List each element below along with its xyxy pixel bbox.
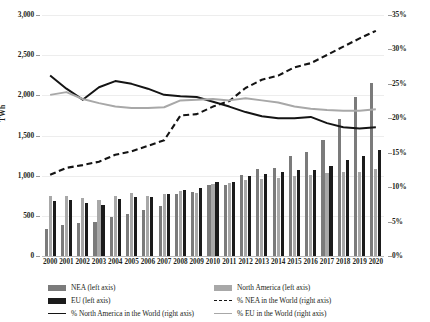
x-axis-tick-label: 2020 — [365, 258, 387, 266]
y-axis-tick-label: 2,000 — [18, 90, 34, 99]
legend-item[interactable]: % EU in the World (right axis) — [214, 307, 430, 320]
y-axis-tickmark — [36, 256, 40, 257]
legend-swatch-icon — [48, 298, 66, 304]
legend-label: % EU in the World (right axis) — [237, 309, 326, 318]
legend-label: NEA (left axis) — [71, 283, 115, 292]
legend-item[interactable]: North America (left axis) — [214, 281, 430, 294]
y2-axis-tick-label: 15% — [392, 148, 406, 157]
plot-area — [42, 15, 384, 256]
legend-column-left: NEA (left axis)EU (left axis)% North Ame… — [0, 281, 192, 322]
y-axis-tick-label: 3,000 — [18, 10, 34, 19]
left-axis-ticks: 05001,0001,5002,0002,5003,000 — [0, 15, 40, 256]
line-series-layer — [42, 15, 384, 256]
legend-item[interactable]: EU (left axis) — [48, 294, 192, 307]
legend-swatch-icon — [214, 300, 232, 301]
y2-axis-tickmark — [388, 256, 392, 257]
legend-swatch-icon — [214, 285, 232, 291]
legend-label: % North America in the World (right axis… — [71, 309, 194, 318]
y2-axis-tick-label: 20% — [392, 113, 406, 122]
y2-axis-tickmark — [388, 49, 392, 50]
legend-item[interactable]: NEA (left axis) — [48, 281, 192, 294]
y2-axis-tickmark — [388, 153, 392, 154]
y2-axis-tick-label: 35% — [392, 10, 406, 19]
legend-column-right: North America (left axis)% NEA in the Wo… — [192, 281, 430, 322]
y-axis-tick-label: 0 — [30, 251, 34, 260]
gridline — [42, 256, 384, 257]
y2-axis-tick-label: 0% — [392, 251, 403, 260]
y-axis-tick-label: 1,000 — [18, 171, 34, 180]
legend-swatch-icon — [48, 285, 66, 291]
y-axis-tickmark — [36, 55, 40, 56]
y2-axis-tick-label: 5% — [392, 217, 403, 226]
legend-swatch-icon — [48, 313, 66, 314]
line-series — [50, 76, 376, 129]
y-axis-tick-label: 1,500 — [18, 131, 34, 140]
x-axis-labels: 2000200120022003200420052006200720082009… — [42, 258, 384, 272]
legend-label: North America (left axis) — [237, 283, 310, 292]
y2-axis-tickmark — [388, 15, 392, 16]
y2-axis-tick-label: 25% — [392, 79, 406, 88]
y2-axis-tickmark — [388, 222, 392, 223]
y2-axis-tickmark — [388, 187, 392, 188]
legend-item[interactable]: % North America in the World (right axis… — [48, 307, 192, 320]
y-axis-tickmark — [36, 136, 40, 137]
legend-label: % NEA in the World (right axis) — [237, 296, 331, 305]
chart-legend: NEA (left axis)EU (left axis)% North Ame… — [0, 281, 430, 322]
y-axis-tickmark — [36, 176, 40, 177]
y-axis-tick-label: 500 — [23, 211, 34, 220]
y-axis-tick-label: 2,500 — [18, 50, 34, 59]
y-axis-tickmark — [36, 95, 40, 96]
y2-axis-tickmark — [388, 118, 392, 119]
y2-axis-tick-label: 30% — [392, 44, 406, 53]
y2-axis-tick-label: 10% — [392, 182, 406, 191]
legend-label: EU (left axis) — [71, 296, 111, 305]
chart-container: TWh 05001,0001,5002,0002,5003,000 0%5%10… — [0, 0, 430, 322]
right-axis-ticks: 0%5%10%15%20%25%30%35% — [388, 15, 430, 256]
y-axis-tickmark — [36, 15, 40, 16]
legend-item[interactable]: % NEA in the World (right axis) — [214, 294, 430, 307]
legend-swatch-icon — [214, 313, 232, 314]
y-axis-tickmark — [36, 216, 40, 217]
y2-axis-tickmark — [388, 84, 392, 85]
